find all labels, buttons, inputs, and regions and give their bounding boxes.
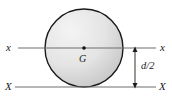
dimension-arrowhead-top (133, 47, 138, 53)
figure-canvas (0, 0, 172, 104)
centroid-dot (82, 46, 86, 50)
axis-label-capital-x-right: X (159, 81, 166, 92)
circle-section-figure: x x X X d/2 G (0, 0, 172, 104)
dimension-arrowhead-bottom (133, 83, 138, 89)
dimension-label-d-over-2: d/2 (141, 61, 154, 72)
centroid-label-g: G (79, 54, 86, 64)
axis-label-capital-x-left: X (5, 81, 12, 92)
axis-label-x-left: x (6, 42, 11, 53)
axis-label-x-right: x (160, 42, 165, 53)
